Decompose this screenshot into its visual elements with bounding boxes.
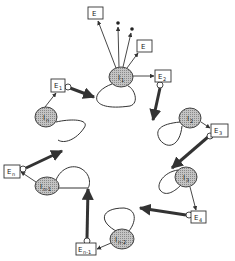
e2-to-i2 bbox=[153, 82, 163, 120]
node-i1: I 1 bbox=[109, 67, 133, 87]
svg-text:4: 4 bbox=[199, 217, 202, 223]
svg-text:n-1: n-1 bbox=[43, 186, 51, 192]
svg-text:I: I bbox=[118, 74, 120, 82]
box-e-top-right: E bbox=[137, 40, 152, 52]
node-i3: I 3 bbox=[175, 167, 197, 187]
svg-text:E: E bbox=[214, 127, 218, 135]
node-in-2: I n-2 bbox=[110, 229, 134, 249]
node-i2: I 2 bbox=[179, 108, 201, 128]
en-to-in bbox=[20, 151, 62, 172]
event-boxes: E E E 1 E 2 E 3 E 4 E n-1 bbox=[4, 7, 228, 255]
svg-text:n: n bbox=[46, 117, 49, 123]
svg-text:I: I bbox=[187, 115, 189, 123]
state-cycle-diagram: I 1 I 2 I 3 I n-2 I n-1 I n bbox=[0, 0, 235, 261]
box-e1: E 1 bbox=[51, 79, 65, 92]
svg-text:E: E bbox=[7, 168, 11, 176]
svg-text:I: I bbox=[43, 114, 45, 122]
loop-i1 bbox=[97, 84, 136, 107]
box-e-top-left: E bbox=[88, 7, 103, 19]
svg-text:E: E bbox=[78, 246, 82, 254]
state-nodes: I 1 I 2 I 3 I n-2 I n-1 I n bbox=[35, 67, 201, 249]
loop-in-2 bbox=[104, 208, 134, 232]
svg-text:E: E bbox=[158, 73, 162, 81]
svg-text:3: 3 bbox=[186, 177, 189, 183]
svg-text:n-2: n-2 bbox=[118, 239, 126, 245]
box-en: E n bbox=[4, 165, 20, 178]
e1-to-i1 bbox=[65, 84, 94, 97]
box-e3: E 3 bbox=[211, 124, 228, 137]
dot-2 bbox=[130, 27, 134, 31]
loop-i2 bbox=[158, 122, 182, 145]
e4-to-in-2 bbox=[140, 208, 192, 218]
svg-text:n-1: n-1 bbox=[83, 249, 91, 255]
box-e2: E 2 bbox=[155, 70, 171, 82]
box-e4: E 4 bbox=[191, 211, 206, 223]
svg-text:E: E bbox=[194, 214, 198, 222]
svg-text:I: I bbox=[40, 183, 42, 191]
svg-text:E: E bbox=[92, 10, 96, 18]
svg-text:1: 1 bbox=[59, 85, 62, 91]
box-en-1: E n-1 bbox=[76, 243, 96, 255]
svg-text:2: 2 bbox=[163, 76, 166, 82]
node-in: I n bbox=[35, 107, 57, 127]
self-loops bbox=[56, 84, 182, 232]
svg-text:2: 2 bbox=[190, 118, 193, 124]
dot-1 bbox=[116, 21, 120, 25]
transition-arrows bbox=[20, 82, 213, 244]
loop-in-1 bbox=[56, 167, 90, 188]
loop-in bbox=[56, 120, 85, 142]
svg-text:3: 3 bbox=[219, 130, 222, 136]
svg-text:I: I bbox=[183, 174, 185, 182]
svg-text:1: 1 bbox=[121, 77, 124, 83]
e3-to-i3 bbox=[172, 133, 213, 168]
svg-text:E: E bbox=[141, 43, 145, 51]
svg-text:n: n bbox=[12, 171, 15, 177]
terminal-dots bbox=[116, 21, 134, 31]
en-1-to-in-1 bbox=[84, 189, 90, 244]
svg-text:I: I bbox=[115, 236, 117, 244]
node-in-1: I n-1 bbox=[35, 177, 59, 195]
svg-text:E: E bbox=[54, 82, 58, 90]
